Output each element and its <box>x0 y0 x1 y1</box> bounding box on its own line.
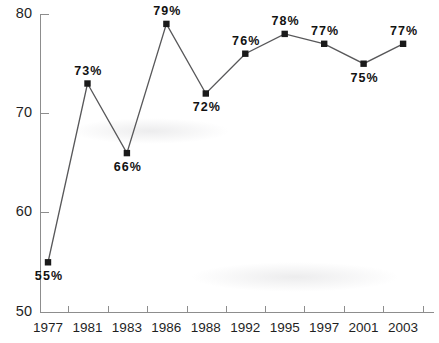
point-label-2003: 77% <box>381 24 427 38</box>
data-point-marker <box>203 90 209 96</box>
data-point-marker <box>360 61 366 67</box>
data-point-marker <box>84 80 90 86</box>
point-label-1997: 77% <box>302 24 348 38</box>
series-line-1 <box>48 24 403 262</box>
line-chart: 80 70 60 50 1977198119831986198819921995… <box>0 0 439 343</box>
point-label-1992: 76% <box>223 34 269 48</box>
x-tick-label-1992: 1992 <box>223 320 267 335</box>
x-tick-label-1986: 1986 <box>144 320 188 335</box>
point-label-1988: 72% <box>184 100 230 114</box>
y-tick-label-60: 60 <box>0 204 32 219</box>
data-point-marker <box>163 21 169 27</box>
point-label-1977: 55% <box>26 269 72 283</box>
data-point-marker <box>321 41 327 47</box>
point-label-1983: 66% <box>105 160 151 174</box>
data-series-group <box>45 21 407 266</box>
plot-area <box>0 0 439 343</box>
y-tick-label-70: 70 <box>0 105 32 120</box>
x-tick-label-1997: 1997 <box>302 320 346 335</box>
x-tick-label-2003: 2003 <box>381 320 425 335</box>
data-point-marker <box>282 31 288 37</box>
data-point-marker <box>400 41 406 47</box>
data-point-marker <box>242 51 248 57</box>
x-tick-label-1988: 1988 <box>184 320 228 335</box>
x-tick-label-1981: 1981 <box>65 320 109 335</box>
point-label-1986: 79% <box>144 4 190 18</box>
y-tick-label-50: 50 <box>0 304 32 319</box>
point-label-1981: 73% <box>65 64 111 78</box>
data-point-marker <box>45 259 51 265</box>
point-label-2001: 75% <box>342 71 388 85</box>
x-tick-label-1977: 1977 <box>26 320 70 335</box>
x-tick-label-1995: 1995 <box>263 320 307 335</box>
data-point-marker <box>124 150 130 156</box>
x-tick-label-1983: 1983 <box>105 320 149 335</box>
y-tick-label-80: 80 <box>0 6 32 21</box>
x-tick-label-2001: 2001 <box>342 320 386 335</box>
